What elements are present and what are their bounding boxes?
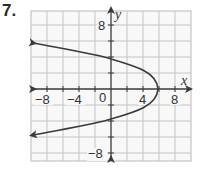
origin-label: 0 bbox=[99, 90, 106, 105]
x-tick-label: −4 bbox=[67, 92, 82, 107]
x-tick-label: 8 bbox=[171, 92, 178, 107]
y-tick-label: −8 bbox=[88, 146, 103, 161]
x-tick-label: −8 bbox=[35, 92, 50, 107]
x-axis-label: x bbox=[180, 73, 188, 88]
y-tick-label: 8 bbox=[98, 18, 105, 33]
y-axis-label: y bbox=[113, 7, 122, 22]
x-tick-label: 4 bbox=[139, 92, 146, 107]
graph: −8 −4 0 4 8 8 −8 y x bbox=[0, 0, 202, 184]
